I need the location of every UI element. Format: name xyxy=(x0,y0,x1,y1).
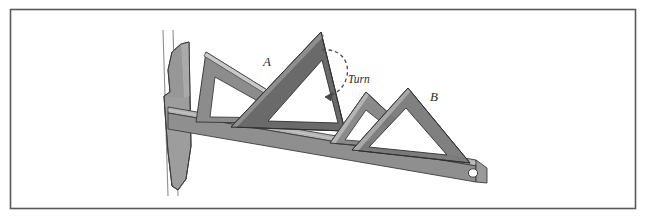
figure-illustration: A B Turn xyxy=(0,0,646,218)
label-triangle-a: A xyxy=(262,54,271,69)
label-turn: Turn xyxy=(348,73,370,85)
label-triangle-b: B xyxy=(430,89,438,104)
figure-root: A B Turn xyxy=(0,0,646,218)
blade-end-hole xyxy=(468,169,477,177)
